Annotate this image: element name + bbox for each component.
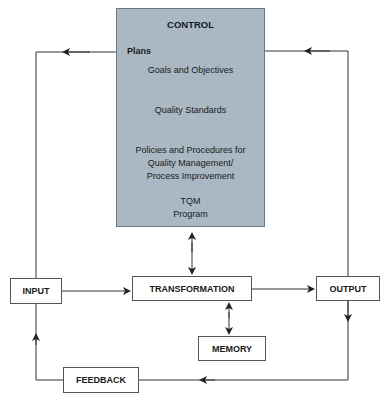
step-tqm-line1: TQM xyxy=(117,195,264,209)
control-box: CONTROL Plans Goals and Objectives Quali… xyxy=(116,8,265,227)
feedback-box: FEEDBACK xyxy=(63,367,139,393)
transformation-box: TRANSFORMATION xyxy=(132,276,252,301)
step-policies-line3: Process Improvement xyxy=(117,170,264,184)
input-to-control-line xyxy=(36,52,116,278)
step-standards: Quality Standards xyxy=(117,104,264,118)
step-policies-line2: Quality Management/ xyxy=(117,157,264,171)
plans-label: Plans xyxy=(127,46,151,56)
feedback-to-input-line xyxy=(36,303,63,380)
output-box: OUTPUT xyxy=(316,276,380,301)
control-title: CONTROL xyxy=(117,19,264,30)
input-box: INPUT xyxy=(10,278,62,304)
step-policies-line1: Policies and Procedures for xyxy=(117,144,264,158)
output-to-control-line xyxy=(265,51,348,276)
step-goals: Goals and Objectives xyxy=(117,64,264,78)
step-tqm-line2: Program xyxy=(117,208,264,222)
memory-box: MEMORY xyxy=(198,336,266,361)
